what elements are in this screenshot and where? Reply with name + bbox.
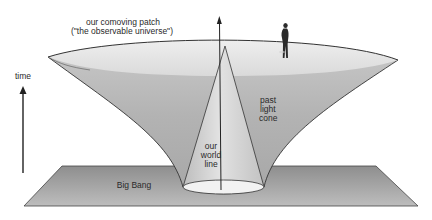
time-label: time xyxy=(15,72,31,81)
diagram-canvas: our comoving patch ("the observable univ… xyxy=(0,0,432,220)
world-line-arrowhead-icon xyxy=(217,16,222,24)
big-bang-ellipse xyxy=(183,180,264,194)
time-arrowhead-icon xyxy=(20,86,27,94)
past-light-cone-label-line3: cone xyxy=(259,114,277,123)
observer-person-icon xyxy=(279,23,289,58)
world-line-label-line3: line xyxy=(199,160,223,169)
big-bang-label: Big Bang xyxy=(104,181,164,190)
comoving-patch-label-line2: ("the observable universe") xyxy=(52,27,192,36)
